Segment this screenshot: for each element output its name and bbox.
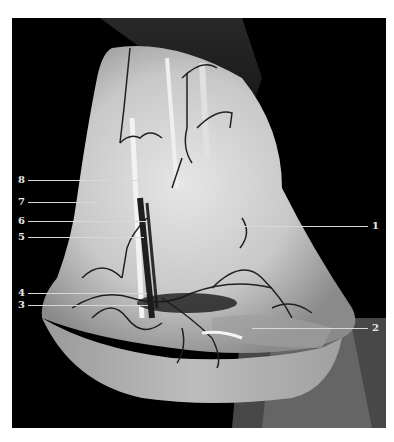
label-8: 8 [18,175,25,185]
leader-line-1 [215,226,368,227]
label-1: 1 [372,221,379,231]
label-7: 7 [18,197,25,207]
leader-line-6 [28,221,147,222]
dissection-photo [12,18,386,428]
leader-line-4 [28,293,147,294]
leader-line-2 [252,328,368,329]
label-4: 4 [18,288,25,298]
label-3: 3 [18,300,25,310]
label-5: 5 [18,232,25,242]
leader-line-8 [28,180,141,181]
leader-line-3 [28,305,148,306]
label-6: 6 [18,216,25,226]
label-2: 2 [372,323,379,333]
leader-line-5 [28,237,144,238]
leader-line-7 [28,202,97,203]
foot-dissection-illustration [12,18,386,428]
